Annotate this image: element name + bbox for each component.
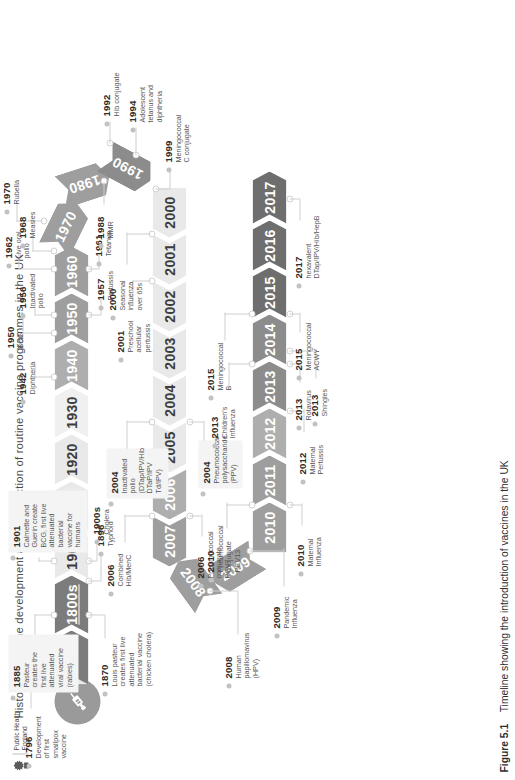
event-year: 2015 [206, 344, 215, 390]
segment-2014[interactable]: 2014 [252, 314, 286, 364]
segment-2012[interactable]: 2012 [252, 408, 286, 458]
connector-2004 [126, 421, 150, 422]
segment-2002[interactable]: 2002 [152, 281, 186, 331]
segment-2015[interactable]: 2015 [252, 267, 286, 317]
event-year: 2009 [272, 588, 281, 628]
event-2009[interactable]: 2009Pandemic Influenza [272, 586, 299, 630]
event-1900s[interactable]: 1900sCholera [92, 496, 110, 536]
event-2017[interactable]: 2017hexavalent DTap/IPV/Hib/HepB [294, 218, 321, 280]
segment-2007[interactable]: 2007 [152, 516, 186, 566]
event-2010[interactable]: 2010Pneumococcal conjugate PCV13 [206, 524, 241, 574]
event-text: Calmette and Guerin create BCG, first li… [21, 503, 82, 547]
infographic-page: Public Health England Historical vaccine… [0, 0, 515, 780]
event-2008[interactable]: 2008Human papillomavirus (HPV) [224, 634, 259, 680]
event-year: 1956 [18, 272, 27, 308]
event-2004b[interactable]: 2004Pneumococcal polysaccharide (PPV) [198, 440, 242, 488]
segment-1970[interactable]: 1970 [38, 195, 91, 257]
event-text: Meningococcal B [215, 342, 233, 390]
segment-2000[interactable]: 2000 [152, 187, 186, 237]
event-text: Meningococcal ACWY [303, 322, 321, 370]
event-year: 2006 [106, 542, 115, 586]
connector-1942 [34, 376, 52, 377]
event-year: 2001 [116, 308, 125, 352]
segment-1950[interactable]: 1950 [54, 293, 88, 343]
event-dot-icon [110, 315, 115, 320]
event-dot-icon [20, 243, 25, 248]
event-1885[interactable]: 1885Pasteur creates the first live atten… [8, 634, 78, 692]
segment-2013[interactable]: 2013 [252, 361, 286, 411]
connector-2008 [209, 590, 237, 591]
connector-1950 [22, 332, 52, 333]
segment-label: 2016 [261, 229, 277, 261]
segment-1920[interactable]: 1920 [54, 434, 88, 484]
connector-2015-h [224, 312, 225, 340]
segment-label: 2007 [161, 525, 177, 557]
event-1796[interactable]: 1796Development of first smallpox vaccin… [24, 712, 68, 760]
event-1992[interactable]: 1992Hib conjugate [102, 68, 120, 118]
segment-2017[interactable]: 2017 [252, 171, 286, 223]
connector-2015b [289, 313, 299, 314]
segment-label: 1920 [63, 443, 79, 475]
segment-1940[interactable]: 1940 [54, 340, 88, 390]
event-text: Pneumococcal conjugate PCV13 [215, 525, 241, 572]
segment-1800s[interactable]: 1800s [54, 575, 88, 633]
event-dot-icon [20, 313, 25, 318]
event-2015b[interactable]: 2015Meningococcal ACWY [294, 328, 321, 372]
event-1999[interactable]: 1999Meningococcal C conjugate [164, 116, 191, 164]
event-year: 2004 [110, 453, 119, 493]
event-year: 1900s [92, 498, 101, 534]
segment-2004[interactable]: 2004 [152, 375, 186, 425]
segment-2001[interactable]: 2001 [152, 234, 186, 284]
connector-1896-h [100, 555, 101, 581]
segment-2010[interactable]: 2010 [252, 502, 286, 552]
connector-1896 [88, 580, 100, 581]
event-2006[interactable]: 2006Combined Hib/MenC [106, 540, 133, 588]
connector-2006 [124, 515, 150, 516]
event-text: BCG [15, 332, 24, 348]
segment-2016[interactable]: 2016 [252, 220, 286, 270]
event-text: Pandemic Influenza [281, 596, 299, 628]
event-1870[interactable]: 1870Louis pasteur creates first live att… [100, 628, 153, 688]
event-1970[interactable]: 1970Rubella [2, 170, 20, 206]
event-year: 2008 [224, 636, 233, 678]
event-year: 1950 [6, 314, 15, 348]
event-2001[interactable]: 2001Preschool acellular pertussis [116, 306, 151, 354]
event-1956[interactable]: 1956Inactivated polio [18, 270, 45, 310]
segment-label: 1960 [63, 255, 79, 287]
event-2012[interactable]: 2012Maternal Pertussis [298, 432, 325, 476]
event-dot-icon [208, 577, 213, 582]
event-year: 1942 [18, 356, 27, 394]
segment-label: 2000 [161, 196, 177, 228]
event-2013c[interactable]: 2013Shingles [310, 378, 328, 418]
event-2013[interactable]: 2013Children's Influenza [210, 386, 237, 440]
segment-label: 1970 [51, 208, 80, 244]
event-dot-icon [4, 209, 9, 214]
event-dot-icon [312, 421, 317, 426]
event-text: Combined Hib/MenC [115, 553, 133, 586]
event-1901[interactable]: 1901Calmette and Guerin create BCG, firs… [8, 490, 87, 552]
connector-1885 [34, 614, 52, 615]
event-2010b[interactable]: 2010Maternal Influenza [296, 524, 323, 568]
event-2015[interactable]: 2015Meningococcal B [206, 342, 233, 392]
event-2004[interactable]: 2004Inactivated polio (DTap/IPV/Hib DTaP… [106, 448, 168, 498]
connector-2000 [126, 233, 150, 234]
segment-1930[interactable]: 1930 [54, 387, 88, 437]
segment-label: 2003 [161, 337, 177, 369]
segment-2003[interactable]: 2003 [152, 328, 186, 378]
event-1988[interactable]: 1988MMR [96, 206, 114, 240]
segment-2011[interactable]: 2011 [252, 455, 286, 505]
event-dot-icon [20, 399, 25, 404]
event-text: Diphtheria [27, 361, 36, 394]
event-1994[interactable]: 1994Adolescent tetanus and diphtheria [128, 76, 163, 124]
connector-2010 [226, 504, 250, 505]
event-1968[interactable]: 1968Measles [18, 204, 36, 240]
event-dot-icon [226, 683, 231, 688]
event-text: Meningococcal C conjugate [173, 114, 191, 162]
event-2000[interactable]: 2000Seasonal influenza over 65s [108, 264, 143, 312]
event-text: Inactivated polio [27, 273, 45, 308]
event-text: Shingles [319, 388, 328, 416]
connector-1956 [34, 314, 52, 315]
event-1942[interactable]: 1942Diphtheria [18, 354, 36, 396]
segment-label: 2010 [261, 511, 277, 543]
event-dot-icon [98, 305, 103, 310]
